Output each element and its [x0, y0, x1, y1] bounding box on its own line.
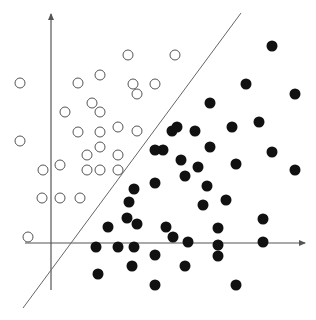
- filled-point: [202, 181, 213, 192]
- filled-point: [241, 79, 252, 90]
- filled-point: [150, 145, 161, 156]
- open-point: [132, 126, 142, 136]
- filled-point: [122, 213, 133, 224]
- filled-point: [227, 122, 238, 133]
- filled-point: [103, 222, 114, 233]
- open-point: [73, 127, 83, 137]
- open-point: [95, 142, 105, 152]
- filled-point: [258, 214, 269, 225]
- open-point: [128, 79, 138, 89]
- filled-point: [129, 184, 140, 195]
- open-point: [82, 165, 92, 175]
- open-point: [55, 160, 65, 170]
- filled-point: [221, 195, 232, 206]
- filled-point: [205, 142, 216, 153]
- open-point: [73, 78, 83, 88]
- open-point: [55, 193, 65, 203]
- open-point: [87, 98, 97, 108]
- filled-point: [124, 197, 135, 208]
- open-point: [95, 127, 105, 137]
- filled-point: [150, 178, 161, 189]
- open-point: [113, 165, 123, 175]
- filled-point: [231, 159, 242, 170]
- filled-point: [190, 126, 201, 137]
- open-point: [150, 79, 160, 89]
- filled-point: [93, 269, 104, 280]
- filled-point: [193, 162, 204, 173]
- filled-point: [180, 261, 191, 272]
- filled-point: [254, 117, 265, 128]
- open-point: [95, 107, 105, 117]
- filled-point: [176, 155, 187, 166]
- filled-point: [213, 223, 224, 234]
- open-point: [132, 89, 142, 99]
- filled-point: [180, 171, 191, 182]
- filled-point: [183, 237, 194, 248]
- filled-point: [168, 232, 179, 243]
- open-point: [113, 122, 123, 132]
- filled-point: [161, 222, 172, 233]
- open-point: [15, 136, 25, 146]
- open-point: [60, 107, 70, 117]
- filled-point: [129, 242, 140, 253]
- filled-point: [91, 242, 102, 253]
- filled-point: [132, 219, 143, 230]
- open-point: [23, 232, 33, 242]
- filled-point: [150, 280, 161, 291]
- open-point: [95, 165, 105, 175]
- open-point: [170, 50, 180, 60]
- filled-point: [290, 165, 301, 176]
- filled-point: [267, 41, 278, 52]
- filled-point: [258, 237, 269, 248]
- filled-point: [231, 280, 242, 291]
- open-point: [82, 150, 92, 160]
- open-point: [38, 165, 48, 175]
- open-point: [113, 150, 123, 160]
- filled-point: [150, 250, 161, 261]
- filled-point: [113, 242, 124, 253]
- filled-point: [172, 122, 183, 133]
- open-point: [37, 193, 47, 203]
- filled-point: [198, 200, 209, 211]
- filled-point: [213, 240, 224, 251]
- filled-point: [205, 98, 216, 109]
- filled-point: [127, 261, 138, 272]
- scatter-diagram: [0, 0, 316, 320]
- open-point: [95, 70, 105, 80]
- open-point: [123, 50, 133, 60]
- open-point: [15, 78, 25, 88]
- class-filled-points: [91, 41, 301, 291]
- filled-point: [213, 251, 224, 262]
- filled-point: [267, 147, 278, 158]
- filled-point: [290, 89, 301, 100]
- open-point: [75, 193, 85, 203]
